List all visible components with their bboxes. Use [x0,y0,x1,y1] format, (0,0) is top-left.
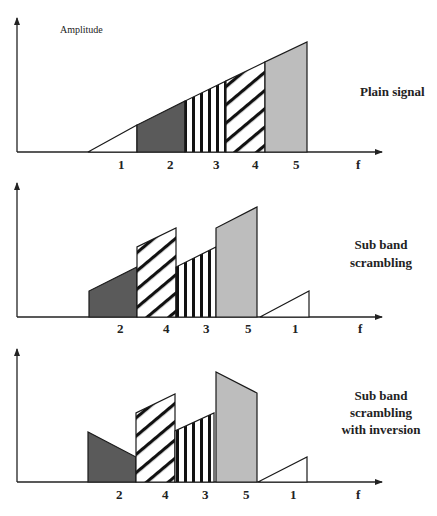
caption-line-3: with inversion [341,422,421,437]
band-label-2: 2 [117,321,124,336]
band-label-4: 4 [252,157,259,172]
band-5-inverted [216,372,257,482]
band-label-3: 3 [202,487,209,502]
band-5 [216,207,257,317]
band-label-1: 1 [118,157,125,172]
band-4 [137,228,176,317]
band-1 [88,125,137,152]
band-label-4: 4 [162,487,169,502]
x-axis-label: f [356,157,361,172]
x-axis-label: f [358,321,363,336]
x-axis-label: f [356,487,361,502]
band-label-5: 5 [245,321,252,336]
band-4 [226,62,265,152]
band-label-1: 1 [290,487,297,502]
caption-line-1: Sub band [354,237,408,252]
caption-line-2: scrambling [350,255,413,270]
band-label-4: 4 [163,321,170,336]
caption-plain-signal: Plain signal [360,84,425,99]
band-5 [265,42,307,152]
band-label-3: 3 [203,321,210,336]
band-label-2: 2 [116,487,123,502]
band-label-1: 1 [292,321,299,336]
band-2 [137,101,185,152]
panel-plain-signal: Amplitude 1 2 3 4 5 f Plain signal [17,18,425,172]
y-axis-label: Amplitude [60,24,103,35]
band-2 [89,267,137,317]
subband-scrambling-diagram: Amplitude 1 2 3 4 5 f Plain signal 2 4 3… [0,0,437,516]
panel-subband-scrambling-inversion: 2 4 3 5 1 f Sub band scrambling with inv… [17,349,421,502]
band-label-2: 2 [167,157,174,172]
band-3 [175,413,214,482]
band-label-5: 5 [243,487,250,502]
panel-subband-scrambling: 2 4 3 5 1 f Sub band scrambling [17,183,413,336]
band-label-5: 5 [293,157,300,172]
band-3 [176,247,216,317]
band-label-3: 3 [213,157,220,172]
band-3 [185,81,226,152]
caption-line-1: Sub band [354,388,408,403]
band-1 [258,457,307,482]
band-1 [260,291,309,317]
band-2-inverted [88,432,136,482]
band-4 [136,394,175,482]
caption-line-2: scrambling [350,405,413,420]
